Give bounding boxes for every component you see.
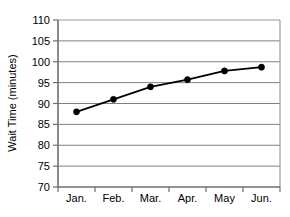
y-axis-tick-label: 90 — [38, 98, 50, 110]
chart-canvas: 707580859095100105110 Jan.Feb.Mar.Apr.Ma… — [0, 0, 290, 217]
data-point-feb — [110, 96, 116, 102]
y-axis-tick-label: 80 — [38, 139, 50, 151]
y-axis-tick-label: 85 — [38, 118, 50, 130]
x-axis-tick-label-may: May — [214, 192, 235, 204]
x-axis-tick-label-jun: Jun. — [251, 192, 272, 204]
y-axis-tick-label: 100 — [32, 56, 50, 68]
x-axis-tick-label-group: Jan.Feb.Mar.Apr.MayJun. — [66, 192, 272, 204]
data-point-jun — [258, 64, 264, 70]
y-axis-tick-label: 75 — [38, 160, 50, 172]
wait-time-line-chart: 707580859095100105110 Jan.Feb.Mar.Apr.Ma… — [0, 0, 290, 217]
x-axis-tick-label-feb: Feb. — [102, 192, 124, 204]
x-axis-tick-label-mar: Mar. — [140, 192, 161, 204]
data-point-jan — [73, 109, 79, 115]
x-axis-tick-label-apr: Apr. — [178, 192, 198, 204]
y-axis-tick-label: 110 — [32, 14, 50, 26]
y-axis-tick-label-group: 707580859095100105110 — [32, 14, 50, 193]
data-point-may — [221, 68, 227, 74]
y-axis-tick-label: 70 — [38, 181, 50, 193]
y-axis-tick-label: 95 — [38, 77, 50, 89]
data-point-mar — [147, 84, 153, 90]
y-axis-title: Wait Time (minutes) — [6, 54, 18, 151]
x-axis-tick-label-jan: Jan. — [66, 192, 87, 204]
y-axis-tick-label: 105 — [32, 35, 50, 47]
data-point-apr — [184, 77, 190, 83]
